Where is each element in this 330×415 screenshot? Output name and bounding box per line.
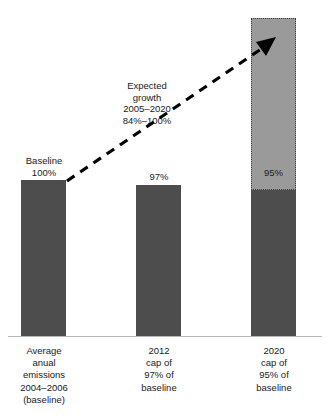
- bar-value-label-cap-2020: 95%: [251, 167, 296, 179]
- expected-growth-annotation: Expected growth 2005–2020 84%–100%: [104, 80, 190, 126]
- bar-cap-2012: [136, 185, 181, 336]
- bar-projected-growth-2020: [251, 18, 296, 190]
- bar-value-label-baseline: Baseline 100%: [13, 155, 75, 178]
- emissions-cap-bar-chart: 95% Baseline 100% 97% Expected growth 20…: [0, 0, 330, 415]
- bar-cap-2020: [251, 190, 296, 336]
- category-label-cap-2012: 2012 cap of 97% of baseline: [119, 345, 199, 394]
- bar-baseline: [21, 180, 66, 336]
- category-label-cap-2020: 2020 cap of 95% of baseline: [234, 345, 314, 394]
- bar-value-label-cap-2012: 97%: [128, 171, 190, 183]
- axis-baseline: [8, 336, 322, 337]
- category-label-baseline: Average anual emissions 2004–2006 (basel…: [4, 345, 84, 406]
